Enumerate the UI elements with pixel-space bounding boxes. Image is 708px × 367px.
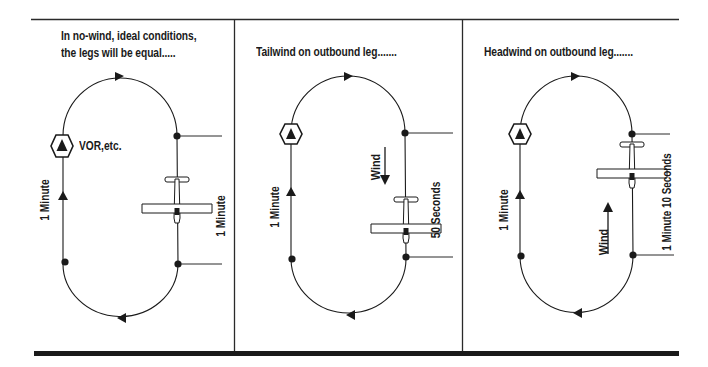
panel-2-outbound-leg-label: 50 Seconds — [429, 176, 443, 244]
panel-3-caption: Headwind on outbound leg....... — [484, 44, 633, 60]
inbound-start-dot — [61, 258, 68, 265]
direction-arrow-top — [115, 72, 124, 81]
panel-2-caption: Tailwind on outbound leg....... — [256, 44, 397, 60]
leg-end-dot — [174, 260, 181, 267]
panel-1-caption-line1: In no-wind, ideal conditions, — [61, 28, 196, 44]
bottom-border-bar — [34, 351, 679, 356]
panel-3-inbound-leg-label: 1 Minute — [497, 185, 511, 236]
racetrack-path — [291, 76, 406, 313]
aircraft-icon — [142, 177, 212, 223]
panel-no-wind — [51, 72, 222, 323]
panel-1-outbound-leg-label: 1 Minute — [214, 191, 228, 242]
direction-arrow-top — [571, 72, 580, 81]
panel-1-caption-line2: the legs will be equal..... — [61, 45, 176, 61]
racetrack-path — [63, 78, 178, 317]
panel-tailwind — [280, 72, 453, 320]
holding-pattern-figure: In no-wind, ideal conditions, the legs w… — [0, 0, 708, 367]
panel-2-inbound-leg-label: 1 Minute — [268, 182, 282, 233]
direction-arrow-top — [344, 72, 353, 81]
vor-station-icon — [509, 124, 531, 144]
racetrack-path — [520, 76, 633, 313]
panel-3-wind-label: Wind — [597, 224, 611, 260]
aircraft-icon — [597, 142, 667, 188]
direction-arrow-bottom — [346, 310, 355, 320]
vor-station-icon — [280, 124, 302, 144]
panel-2-wind-label: Wind — [369, 149, 383, 185]
direction-arrow-inbound — [515, 190, 525, 199]
direction-arrow-inbound — [58, 191, 68, 200]
panel-headwind — [509, 72, 674, 318]
direction-arrow-bottom — [573, 308, 582, 318]
direction-arrow-inbound — [286, 187, 296, 196]
panel-1-inbound-leg-label: 1 Minute — [38, 175, 52, 226]
vor-label: VOR,etc. — [79, 139, 122, 153]
direction-arrow-bottom — [117, 313, 126, 323]
leg-start-dot — [173, 132, 180, 139]
vor-station-icon — [51, 135, 73, 157]
panel-3-outbound-leg-label: 1 Minute 10 Seconds — [660, 149, 674, 256]
